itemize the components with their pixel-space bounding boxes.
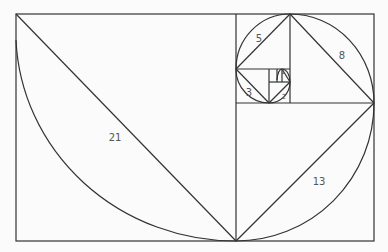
square-8-diagonal	[290, 14, 374, 103]
square-21-diagonal	[16, 14, 236, 241]
square-13-diagonal	[236, 103, 374, 241]
label-3: 3	[246, 87, 252, 98]
label-8: 8	[339, 50, 345, 61]
label-1: 1	[281, 68, 285, 76]
square-5-diagonal	[236, 14, 290, 69]
label-5: 5	[256, 33, 262, 44]
label-13: 13	[313, 176, 326, 187]
outer-rectangle	[16, 14, 374, 241]
fibonacci-diagram: 21 13 8 5 3 2 1	[0, 0, 388, 252]
arc-21	[16, 40, 236, 241]
label-21: 21	[109, 132, 122, 143]
diagram-canvas	[0, 0, 388, 252]
label-2: 2	[282, 93, 286, 101]
